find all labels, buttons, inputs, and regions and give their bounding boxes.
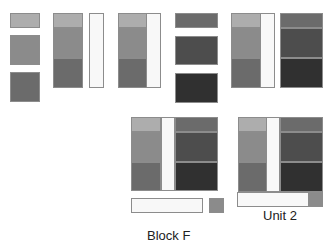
dark-segment-bottom (280, 162, 323, 192)
dark-segment-mid (175, 132, 218, 162)
unit-2-label: Unit 2 (263, 208, 297, 223)
column-segment-top (131, 117, 161, 132)
column-segment-mid (118, 28, 147, 58)
block-f (131, 117, 218, 191)
column-segment-top (238, 117, 267, 132)
dark-rect-bottom (175, 73, 218, 103)
dark-segment-top (280, 117, 323, 132)
column-segment-top (231, 13, 261, 28)
dark-rect-mid (175, 36, 218, 65)
dark-segment-bottom (280, 58, 323, 88)
light-square-mid (10, 35, 40, 65)
unit-2 (237, 117, 323, 207)
column-segment-top (118, 13, 147, 28)
strip-horizontal (131, 198, 203, 213)
column-segment-mid (238, 132, 267, 162)
dark-column (280, 13, 323, 88)
dark-segment-bottom (175, 162, 218, 191)
column-segment-top (53, 13, 83, 28)
column-segment-mid (131, 132, 161, 162)
column-segment-bottom (53, 58, 83, 88)
column-segment-bottom (118, 58, 147, 88)
strip-vertical-1 (89, 13, 104, 88)
combined-column-2 (231, 13, 275, 88)
column-segment-mid (231, 28, 261, 58)
small-square (309, 192, 323, 207)
strip-vertical (260, 13, 275, 88)
strip-vertical (146, 13, 161, 88)
small-square (209, 198, 224, 213)
dark-segment-mid (280, 132, 323, 162)
dark-segment-top (175, 117, 218, 132)
block-f-label: Block F (147, 228, 190, 243)
column-segment-bottom (231, 58, 261, 88)
stacked-column-1 (53, 13, 83, 88)
column-segment-bottom (131, 162, 161, 191)
dark-segment-top (280, 13, 323, 28)
dark-rect-top (175, 13, 218, 28)
strip-horizontal (237, 192, 309, 207)
dark-segment-mid (280, 28, 323, 58)
combined-column (118, 13, 161, 88)
light-square-bottom (10, 72, 40, 102)
column-segment-bottom (238, 162, 267, 192)
strip-vertical (161, 117, 175, 191)
strip-vertical (266, 117, 280, 192)
column-segment-mid (53, 28, 83, 58)
light-square-top (10, 13, 40, 28)
